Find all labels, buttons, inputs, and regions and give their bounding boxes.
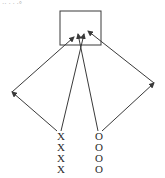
arrow-o-to-right-apex	[102, 83, 154, 131]
header-fragment: ·· · · ·°	[2, 0, 22, 8]
arrow-x-to-left-apex	[12, 92, 57, 131]
diagram-canvas: ·· · · ·° XXXXOOOO	[0, 0, 165, 178]
target-box	[60, 11, 101, 45]
marks-group: XXXXOOOO	[57, 130, 103, 175]
x-mark-4: X	[57, 163, 65, 175]
arrows-group	[12, 31, 154, 131]
arrow-left-apex-to-box	[12, 37, 74, 92]
o-mark-4: O	[95, 163, 103, 175]
arrow-o-to-box	[78, 34, 98, 131]
arrow-right-apex-to-box	[88, 31, 154, 83]
